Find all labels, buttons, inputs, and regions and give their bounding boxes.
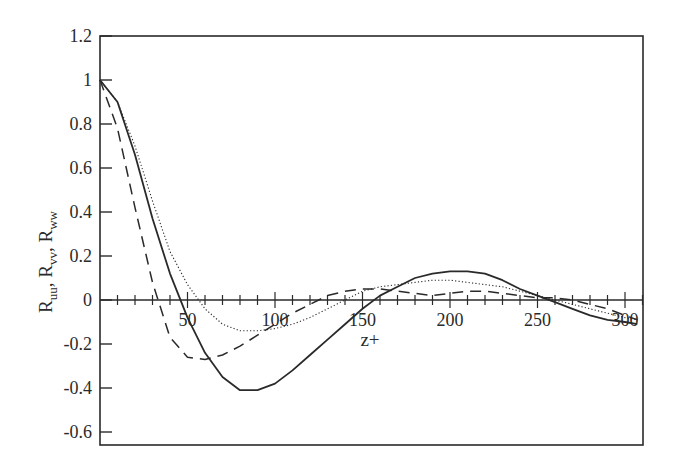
plot-frame — [100, 36, 643, 445]
x-axis-zero-line: 50100150200250300 — [100, 292, 643, 330]
y-tick-label: 1 — [83, 70, 92, 90]
y-tick-label: 1.2 — [70, 26, 93, 46]
y-tick-label: -0.2 — [64, 334, 93, 354]
x-axis-label: z+ — [360, 329, 379, 350]
x-tick-label: 150 — [349, 310, 376, 330]
series-dotted-line — [100, 80, 637, 331]
y-tick-label: 0.2 — [70, 246, 93, 266]
x-tick-label: 200 — [437, 310, 464, 330]
y-axis-label: Ruu, Rvv, Rww — [35, 210, 60, 312]
x-tick-label: 250 — [524, 310, 551, 330]
y-tick-label: 0.8 — [70, 114, 93, 134]
correlation-chart: 1.210.80.60.40.20-0.2-0.4-0.6 5010015020… — [0, 0, 676, 472]
y-tick-label: 0 — [83, 290, 92, 310]
y-axis-ticks: 1.210.80.60.40.20-0.2-0.4-0.6 — [64, 26, 113, 442]
y-tick-label: -0.6 — [64, 422, 93, 442]
x-tick-label: 50 — [179, 310, 197, 330]
y-tick-label: 0.4 — [70, 202, 93, 222]
y-tick-label: 0.6 — [70, 158, 93, 178]
y-tick-label: -0.4 — [64, 378, 93, 398]
x-tick-label: 100 — [262, 310, 289, 330]
